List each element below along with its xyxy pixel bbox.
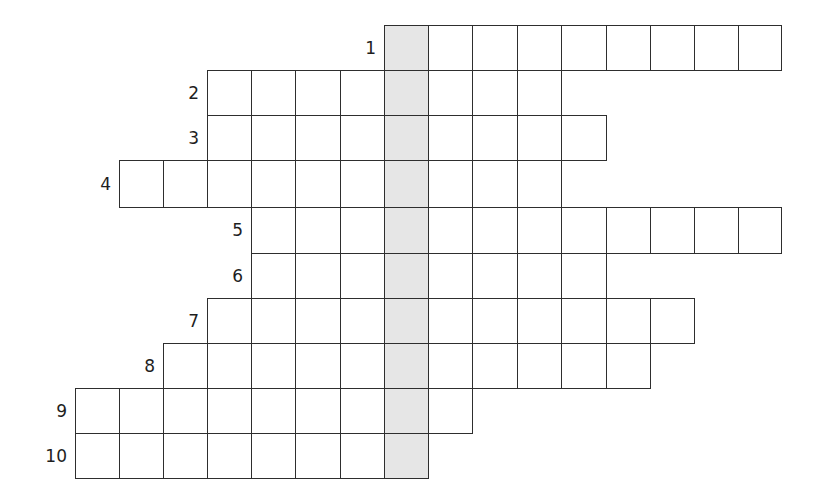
letter-cell[interactable]: [295, 115, 341, 161]
letter-cell[interactable]: [251, 298, 296, 344]
letter-cell[interactable]: [428, 25, 473, 71]
letter-cell[interactable]: [251, 433, 296, 479]
letter-cell[interactable]: [295, 253, 341, 299]
highlighted-cell[interactable]: [384, 253, 429, 299]
clue-number: 7: [169, 311, 199, 331]
letter-cell[interactable]: [207, 388, 252, 434]
letter-cell[interactable]: [75, 388, 120, 434]
letter-cell[interactable]: [207, 115, 252, 161]
highlighted-cell[interactable]: [384, 388, 429, 434]
letter-cell[interactable]: [517, 160, 562, 208]
clue-number: 1: [346, 38, 376, 58]
letter-cell[interactable]: [251, 343, 296, 389]
letter-cell[interactable]: [340, 343, 385, 389]
letter-cell[interactable]: [428, 388, 473, 434]
highlighted-cell[interactable]: [384, 25, 429, 71]
letter-cell[interactable]: [428, 207, 473, 254]
highlighted-cell[interactable]: [384, 70, 429, 116]
letter-cell[interactable]: [340, 298, 385, 344]
highlighted-cell[interactable]: [384, 207, 429, 254]
letter-cell[interactable]: [163, 160, 208, 208]
letter-cell[interactable]: [738, 207, 782, 254]
letter-cell[interactable]: [428, 298, 473, 344]
letter-cell[interactable]: [251, 253, 296, 299]
letter-cell[interactable]: [561, 25, 607, 71]
letter-cell[interactable]: [207, 70, 252, 116]
letter-cell[interactable]: [561, 207, 607, 254]
letter-cell[interactable]: [694, 25, 739, 71]
letter-cell[interactable]: [340, 388, 385, 434]
letter-cell[interactable]: [428, 343, 473, 389]
letter-cell[interactable]: [472, 70, 518, 116]
letter-cell[interactable]: [650, 298, 695, 344]
letter-cell[interactable]: [650, 25, 695, 71]
letter-cell[interactable]: [75, 433, 120, 479]
letter-cell[interactable]: [606, 25, 651, 71]
highlighted-cell[interactable]: [384, 160, 429, 208]
letter-cell[interactable]: [163, 343, 208, 389]
letter-cell[interactable]: [561, 115, 607, 161]
letter-cell[interactable]: [517, 298, 562, 344]
letter-cell[interactable]: [207, 433, 252, 479]
letter-cell[interactable]: [251, 388, 296, 434]
letter-cell[interactable]: [295, 388, 341, 434]
letter-cell[interactable]: [295, 70, 341, 116]
letter-cell[interactable]: [472, 207, 518, 254]
letter-cell[interactable]: [340, 70, 385, 116]
letter-cell[interactable]: [561, 343, 607, 389]
letter-cell[interactable]: [738, 25, 782, 71]
letter-cell[interactable]: [606, 207, 651, 254]
letter-cell[interactable]: [428, 115, 473, 161]
letter-cell[interactable]: [517, 207, 562, 254]
letter-cell[interactable]: [295, 343, 341, 389]
letter-cell[interactable]: [295, 160, 341, 208]
letter-cell[interactable]: [517, 115, 562, 161]
letter-cell[interactable]: [517, 343, 562, 389]
letter-cell[interactable]: [163, 388, 208, 434]
highlighted-cell[interactable]: [384, 433, 429, 479]
letter-cell[interactable]: [694, 207, 739, 254]
letter-cell[interactable]: [428, 253, 473, 299]
letter-cell[interactable]: [472, 25, 518, 71]
letter-cell[interactable]: [472, 115, 518, 161]
clue-number: 4: [81, 174, 111, 194]
letter-cell[interactable]: [251, 207, 296, 254]
clue-number: 9: [37, 401, 67, 421]
letter-cell[interactable]: [163, 433, 208, 479]
letter-cell[interactable]: [207, 298, 252, 344]
highlighted-cell[interactable]: [384, 115, 429, 161]
letter-cell[interactable]: [472, 343, 518, 389]
letter-cell[interactable]: [119, 160, 164, 208]
letter-cell[interactable]: [428, 70, 473, 116]
highlighted-cell[interactable]: [384, 298, 429, 344]
letter-cell[interactable]: [561, 253, 607, 299]
letter-cell[interactable]: [340, 433, 385, 479]
letter-cell[interactable]: [295, 433, 341, 479]
letter-cell[interactable]: [561, 298, 607, 344]
letter-cell[interactable]: [472, 298, 518, 344]
letter-cell[interactable]: [517, 25, 562, 71]
letter-cell[interactable]: [517, 253, 562, 299]
letter-cell[interactable]: [207, 160, 252, 208]
letter-cell[interactable]: [119, 388, 164, 434]
letter-cell[interactable]: [340, 253, 385, 299]
letter-cell[interactable]: [251, 160, 296, 208]
letter-cell[interactable]: [340, 115, 385, 161]
letter-cell[interactable]: [119, 433, 164, 479]
letter-cell[interactable]: [340, 160, 385, 208]
letter-cell[interactable]: [650, 207, 695, 254]
clue-number: 5: [213, 220, 243, 240]
letter-cell[interactable]: [517, 70, 562, 116]
letter-cell[interactable]: [295, 298, 341, 344]
letter-cell[interactable]: [428, 160, 473, 208]
letter-cell[interactable]: [472, 160, 518, 208]
letter-cell[interactable]: [295, 207, 341, 254]
letter-cell[interactable]: [472, 253, 518, 299]
letter-cell[interactable]: [340, 207, 385, 254]
letter-cell[interactable]: [251, 70, 296, 116]
letter-cell[interactable]: [606, 343, 651, 389]
highlighted-cell[interactable]: [384, 343, 429, 389]
letter-cell[interactable]: [207, 343, 252, 389]
letter-cell[interactable]: [606, 298, 651, 344]
letter-cell[interactable]: [251, 115, 296, 161]
